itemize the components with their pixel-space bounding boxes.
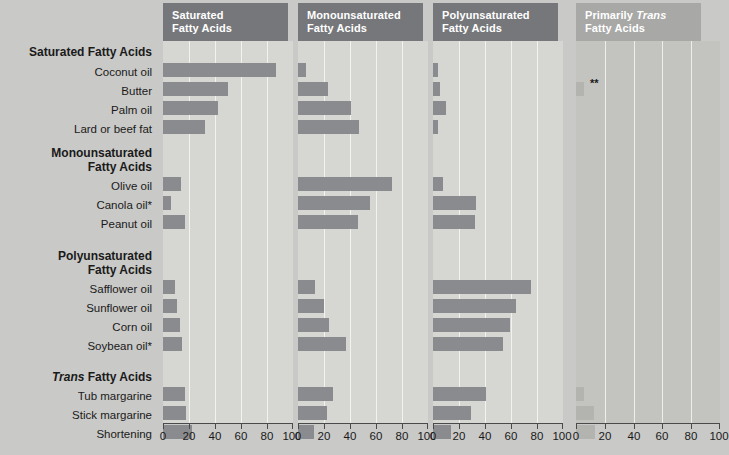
tick-80 xyxy=(691,423,692,429)
tick-0 xyxy=(298,423,299,429)
panel-header-trans: Primarily Trans Fatty Acids xyxy=(576,3,701,41)
bar-saturated-peanut-oil xyxy=(163,215,185,229)
bar-saturated-coconut-oil xyxy=(163,63,276,77)
panel-header-line1: Monounsaturated xyxy=(307,9,401,21)
bar-mono-corn-oil xyxy=(298,318,329,332)
axis-rule xyxy=(163,423,293,424)
panel-header-line2: Fatty Acids xyxy=(307,22,367,34)
bar-poly-stick-margarine xyxy=(433,406,471,420)
tick-label-20: 20 xyxy=(453,430,466,442)
tick-100 xyxy=(292,423,293,429)
tick-label-0: 0 xyxy=(295,430,301,442)
gridline-80 xyxy=(402,41,403,423)
bar-poly-peanut-oil xyxy=(433,215,475,229)
group-label-monounsaturated-line1: Monounsaturated xyxy=(51,147,152,159)
tick-60 xyxy=(376,423,377,429)
bar-mono-palm-oil xyxy=(298,101,351,115)
row-label-safflower-oil: Safflower oil xyxy=(90,283,152,295)
tick-20 xyxy=(189,423,190,429)
tick-label-20: 20 xyxy=(183,430,196,442)
bar-saturated-lard-or-beef-fat xyxy=(163,120,205,134)
bar-saturated-sunflower-oil xyxy=(163,299,177,313)
bar-mono-lard-or-beef-fat xyxy=(298,120,359,134)
tick-label-60: 60 xyxy=(505,430,518,442)
annotation-butter-double-asterisk: ** xyxy=(590,78,599,89)
tick-100 xyxy=(719,423,720,429)
bar-poly-olive-oil xyxy=(433,177,443,191)
tick-60 xyxy=(662,423,663,429)
tick-100 xyxy=(427,423,428,429)
tick-20 xyxy=(459,423,460,429)
bar-saturated-soybean-oil xyxy=(163,337,182,351)
bar-poly-safflower-oil xyxy=(433,280,531,294)
bar-poly-butter xyxy=(433,82,440,96)
tick-label-0: 0 xyxy=(573,430,579,442)
tick-80 xyxy=(267,423,268,429)
axis-polyunsaturated: 0 20 40 60 80 100 xyxy=(433,423,563,455)
gridline-40 xyxy=(634,41,635,423)
bar-saturated-stick-margarine xyxy=(163,406,186,420)
panel-header-line2: Fatty Acids xyxy=(585,22,645,34)
gridline-60 xyxy=(662,41,663,423)
bar-trans-tub-margarine xyxy=(576,387,584,401)
tick-0 xyxy=(163,423,164,429)
bar-trans-stick-margarine xyxy=(576,406,594,420)
bar-mono-coconut-oil xyxy=(298,63,306,77)
gridline-40 xyxy=(485,41,486,423)
panel-header-line1-prefix: Primarily xyxy=(585,9,636,21)
row-label-lard-or-beef-fat: Lard or beef fat xyxy=(74,123,152,135)
plot-area-saturated xyxy=(163,41,293,423)
row-label-sunflower-oil: Sunflower oil xyxy=(86,302,152,314)
tick-label-40: 40 xyxy=(209,430,222,442)
gridline-40 xyxy=(215,41,216,423)
bar-mono-tub-margarine xyxy=(298,387,333,401)
gridline-80 xyxy=(691,41,692,423)
row-label-corn-oil: Corn oil xyxy=(112,321,152,333)
bar-mono-canola-oil xyxy=(298,196,370,210)
axis-rule xyxy=(433,423,563,424)
plot-area-trans: ** xyxy=(576,41,720,423)
tick-label-20: 20 xyxy=(599,430,612,442)
tick-60 xyxy=(241,423,242,429)
axis-monounsaturated: 0 20 40 60 80 100 xyxy=(298,423,428,455)
bar-mono-safflower-oil xyxy=(298,280,315,294)
gridline-60 xyxy=(241,41,242,423)
tick-label-80: 80 xyxy=(396,430,409,442)
chart-panels: Saturated Fatty Acids xyxy=(160,0,723,455)
tick-label-100: 100 xyxy=(709,430,728,442)
bar-saturated-tub-margarine xyxy=(163,387,185,401)
bar-mono-stick-margarine xyxy=(298,406,327,420)
tick-label-0: 0 xyxy=(430,430,436,442)
panel-saturated: Saturated Fatty Acids xyxy=(160,0,295,455)
panel-header-line1-italic: Trans xyxy=(636,9,666,21)
gridline-20 xyxy=(189,41,190,423)
tick-label-80: 80 xyxy=(685,430,698,442)
gridline-60 xyxy=(511,41,512,423)
bar-poly-tub-margarine xyxy=(433,387,486,401)
panel-header-line1: Saturated xyxy=(172,9,224,21)
tick-20 xyxy=(324,423,325,429)
bar-poly-palm-oil xyxy=(433,101,446,115)
axis-rule xyxy=(298,423,428,424)
plot-area-polyunsaturated xyxy=(433,41,563,423)
group-label-monounsaturated-line2: Fatty Acids xyxy=(88,161,152,173)
bar-poly-lard-or-beef-fat xyxy=(433,120,438,134)
row-label-palm-oil: Palm oil xyxy=(111,104,152,116)
tick-label-0: 0 xyxy=(160,430,166,442)
tick-label-80: 80 xyxy=(261,430,274,442)
tick-40 xyxy=(215,423,216,429)
bar-mono-olive-oil xyxy=(298,177,392,191)
row-label-peanut-oil: Peanut oil xyxy=(101,218,152,230)
group-label-saturated: Saturated Fatty Acids xyxy=(29,46,152,58)
row-label-soybean-oil: Soybean oil* xyxy=(87,340,152,352)
tick-20 xyxy=(605,423,606,429)
tick-0 xyxy=(433,423,434,429)
row-label-shortening: Shortening xyxy=(96,428,152,440)
tick-40 xyxy=(350,423,351,429)
row-label-coconut-oil: Coconut oil xyxy=(94,66,152,78)
tick-label-60: 60 xyxy=(370,430,383,442)
tick-40 xyxy=(485,423,486,429)
bar-saturated-butter xyxy=(163,82,228,96)
gridline-20 xyxy=(605,41,606,423)
